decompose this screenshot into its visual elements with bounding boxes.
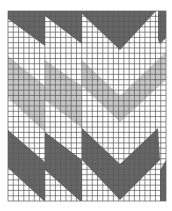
chevron-pattern-chart (0, 0, 172, 211)
